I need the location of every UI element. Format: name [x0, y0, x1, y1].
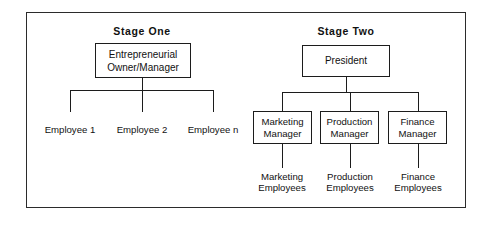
- connector-stage-one-drop-employee-n: [213, 90, 214, 112]
- leaf-employee-n: Employee n: [174, 124, 252, 135]
- leaf-finance-employees: Finance Employees: [378, 171, 458, 193]
- node-president: President: [302, 45, 390, 77]
- connector-marketing-employees-stem: [282, 144, 283, 168]
- node-marketing-manager: Marketing Manager: [253, 111, 312, 144]
- leaf-employee-1: Employee 1: [31, 124, 109, 135]
- connector-finance-employees-stem: [418, 144, 419, 168]
- connector-stage-two-drop-finance: [418, 92, 419, 111]
- node-finance-manager: Finance Manager: [388, 111, 447, 144]
- leaf-employee-2: Employee 2: [103, 124, 181, 135]
- connector-stage-two-drop-production: [350, 92, 351, 111]
- connector-stage-one-drop-employee-1: [70, 90, 71, 112]
- diagram-canvas: Stage One Entrepreneurial Owner/Manager …: [0, 0, 490, 231]
- connector-stage-one-drop-employee-2: [142, 90, 143, 112]
- connector-production-employees-stem: [350, 144, 351, 168]
- stage-one-title: Stage One: [92, 25, 192, 37]
- node-entrepreneurial-owner-manager: Entrepreneurial Owner/Manager: [95, 43, 191, 78]
- connector-stage-two-stem: [346, 77, 347, 92]
- node-production-manager: Production Manager: [320, 111, 379, 144]
- connector-stage-two-drop-marketing: [282, 92, 283, 111]
- stage-two-title: Stage Two: [296, 25, 396, 37]
